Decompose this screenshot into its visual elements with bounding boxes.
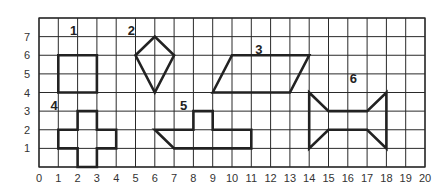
y-tick-label: 4 xyxy=(24,87,30,99)
x-tick-label: 9 xyxy=(210,172,216,184)
x-tick-label: 11 xyxy=(246,172,257,184)
shape-label-2: 2 xyxy=(128,23,135,38)
x-tick-label: 1 xyxy=(55,172,61,184)
x-tick-label: 4 xyxy=(113,172,119,184)
x-tick-label: 6 xyxy=(152,172,158,184)
x-tick-label: 5 xyxy=(132,172,138,184)
shape-label-1: 1 xyxy=(70,23,77,38)
coordinate-grid-diagram: 01234567891011121314151617181920 1234567… xyxy=(0,0,441,188)
x-tick-label: 17 xyxy=(361,172,373,184)
x-tick-label: 8 xyxy=(190,172,196,184)
y-axis-ticks: 1234567 xyxy=(24,31,30,155)
x-tick-label: 13 xyxy=(284,172,296,184)
y-tick-label: 1 xyxy=(24,142,30,154)
x-axis-ticks: 01234567891011121314151617181920 xyxy=(36,172,431,184)
x-tick-label: 18 xyxy=(380,172,392,184)
x-tick-label: 19 xyxy=(400,172,412,184)
y-tick-label: 2 xyxy=(24,124,30,136)
x-tick-label: 2 xyxy=(75,172,81,184)
shape-label-3: 3 xyxy=(255,42,262,57)
x-tick-label: 15 xyxy=(322,172,334,184)
x-tick-label: 3 xyxy=(94,172,100,184)
y-tick-label: 6 xyxy=(24,49,30,61)
x-tick-label: 14 xyxy=(303,172,315,184)
x-tick-label: 7 xyxy=(171,172,177,184)
shape-label-5: 5 xyxy=(180,98,187,113)
y-tick-label: 7 xyxy=(24,31,30,43)
x-tick-label: 0 xyxy=(36,172,42,184)
x-tick-label: 20 xyxy=(419,172,431,184)
x-tick-label: 12 xyxy=(264,172,276,184)
shapes xyxy=(58,37,386,167)
shape-cross xyxy=(58,111,116,167)
y-tick-label: 5 xyxy=(24,68,30,80)
x-tick-label: 16 xyxy=(342,172,354,184)
y-tick-label: 3 xyxy=(24,105,30,117)
shape-label-4: 4 xyxy=(51,98,59,113)
shape-label-6: 6 xyxy=(350,71,357,86)
x-tick-label: 10 xyxy=(226,172,238,184)
